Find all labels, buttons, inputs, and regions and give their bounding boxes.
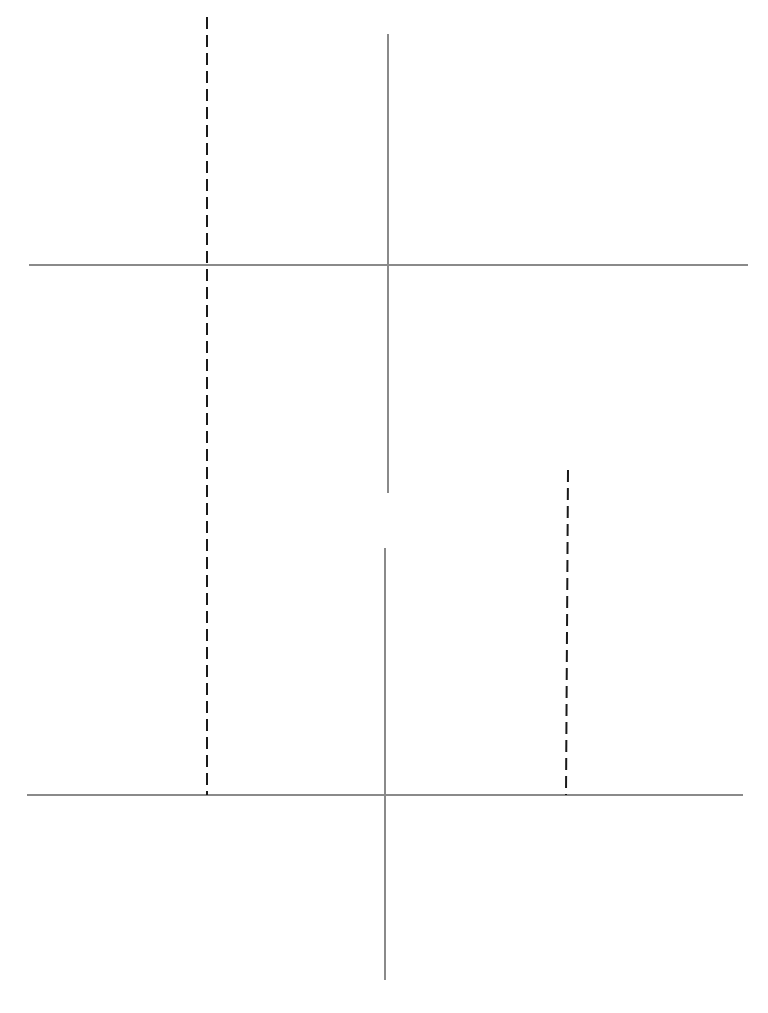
vertical-dashed-link-right [566,470,568,795]
top-chart [29,34,748,493]
derivative-chart-figure [0,0,768,1013]
bottom-chart [27,548,743,980]
